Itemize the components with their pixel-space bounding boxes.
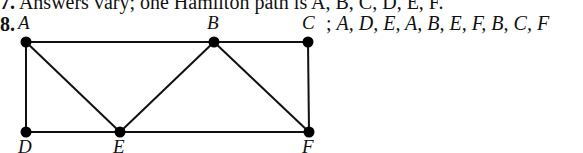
vertex-label-F: F [302,136,314,153]
euler-path: A, D, E, A, B, E, F, B, C, F [337,12,550,34]
vertex-label-A: A [18,12,30,34]
vertex-label-B: B [207,12,219,34]
edge-BF [214,42,309,132]
vertex-C [303,37,314,48]
edge-EB [120,42,214,132]
vertex-A [21,37,32,48]
answer-separator: ; [326,12,332,34]
vertex-B [209,37,220,48]
answer-text: ; A, D, E, A, B, E, F, B, C, F [326,12,549,35]
vertex-label-D: D [18,136,32,153]
graph-edges [26,42,309,132]
vertex-label-C: C [302,12,315,34]
edge-CF [308,42,309,132]
vertex-label-E: E [113,136,125,153]
edge-AE [26,42,120,132]
